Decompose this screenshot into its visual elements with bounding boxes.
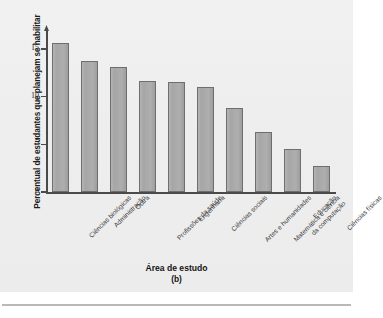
y-axis-title: Percentual de estudantes que planejam se… <box>33 12 42 212</box>
bar <box>313 166 330 192</box>
bar <box>284 149 301 192</box>
y-axis-tick-label: 10 <box>31 91 39 100</box>
x-axis-category-label: Engenharia <box>196 194 225 223</box>
page-horizontal-rule <box>2 304 351 306</box>
bar <box>81 61 98 193</box>
y-axis-tick-label: 5 <box>35 138 39 147</box>
x-axis-category-label: Ciências físicas <box>345 194 383 232</box>
bar <box>255 132 272 192</box>
y-axis-tick-label: 15 <box>31 43 39 52</box>
x-axis-category-label: Ciências sociais <box>229 194 268 233</box>
bar <box>52 43 69 192</box>
panel-letter-caption: (b) <box>0 274 353 284</box>
x-axis-tick-labels: Ciências biológicasAdministraçãoOutraPro… <box>46 194 346 264</box>
bar <box>168 82 185 192</box>
plot-area: 051015 <box>46 30 336 192</box>
bar <box>226 108 243 192</box>
bar <box>110 67 127 192</box>
y-axis-tick-label: 0 <box>35 186 39 195</box>
bar-chart-figure: Percentual de estudantes que planejam se… <box>0 0 353 292</box>
bar <box>197 87 214 192</box>
bar <box>139 81 156 192</box>
bar-series <box>46 30 336 192</box>
x-axis-category-label: Outra <box>133 194 150 211</box>
x-axis-title: Área de estudo <box>0 263 353 273</box>
